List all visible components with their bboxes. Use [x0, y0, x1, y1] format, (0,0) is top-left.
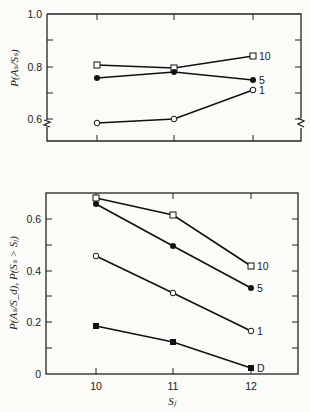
- series-label-5: 5: [257, 282, 263, 294]
- x-tick-label: 10: [90, 380, 102, 392]
- figure: 1.0 0.8 0.6 P(Aₛ/Sₛ) 10 5 1: [0, 0, 310, 412]
- series-label-1: 1: [259, 84, 265, 96]
- x-tick-label: 11: [168, 380, 179, 392]
- series-label-1: 1: [257, 325, 263, 337]
- series-D-line: [96, 326, 251, 368]
- top-y-axis-label: P(Aₛ/Sₛ): [8, 49, 21, 88]
- y-tick-label: 0.8: [27, 61, 42, 73]
- y-tick-label: 0: [35, 368, 41, 380]
- series-label-D: D: [257, 362, 265, 374]
- series-10-markers: [93, 195, 254, 269]
- series-1-markers: [94, 87, 256, 126]
- bottom-y-axis-label: P(Aₛ/S_d), P(Sₛ > Sⱼ): [7, 236, 20, 331]
- bottom-chart: 0.6 0.4 0.2 0 10 11 12 Sⱼ P(Aₛ/S_d), P(S…: [7, 193, 298, 407]
- series-label-10: 10: [259, 50, 271, 62]
- y-tick-label: 0.6: [26, 213, 41, 225]
- y-tick-label: 0.4: [26, 265, 41, 277]
- top-chart: 1.0 0.8 0.6 P(Aₛ/Sₛ) 10 5 1: [8, 8, 304, 141]
- y-tick-label: 1.0: [27, 8, 42, 20]
- series-10-line: [96, 198, 251, 266]
- y-tick-label: 0.6: [27, 113, 42, 125]
- x-tick-label: 12: [245, 380, 257, 392]
- y-tick-label: 0.2: [26, 316, 41, 328]
- series-10-markers: [94, 53, 256, 71]
- x-axis-label: Sⱼ: [168, 395, 177, 407]
- series-1-markers: [93, 253, 254, 334]
- axis-break-icon: [44, 120, 50, 127]
- series-label-10: 10: [257, 260, 269, 272]
